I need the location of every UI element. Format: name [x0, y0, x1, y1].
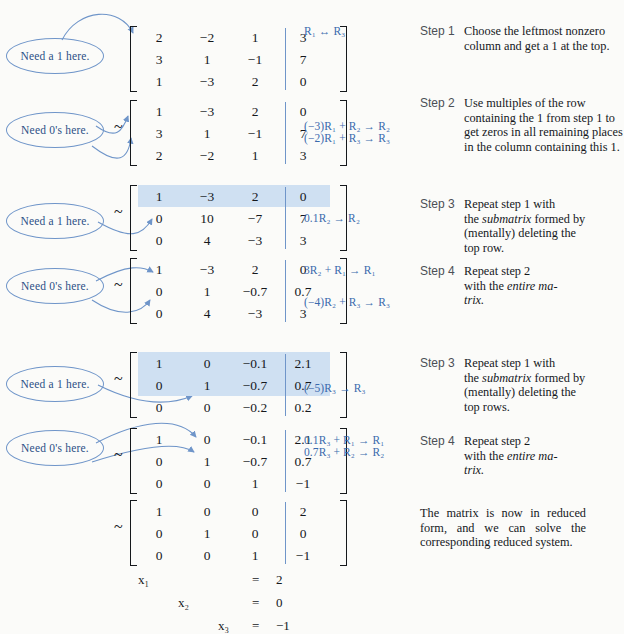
- matrix-7: 10020100001−1: [138, 500, 338, 566]
- row-operation-6: 0.1R₃ + R₁ → R₁ 0.7R₃ + R₂ → R₂: [304, 434, 384, 458]
- callout-need-0-second: Need 0's here.: [6, 268, 104, 304]
- matrix-cell: 0: [234, 500, 282, 522]
- matrix-bracket-left: [130, 428, 139, 494]
- solution-equals: =: [252, 595, 259, 611]
- matrix-cell: 0: [186, 544, 234, 566]
- matrix-cell: −3: [186, 185, 234, 207]
- matrix-cell: 1: [138, 70, 186, 92]
- solution-variable: x₃: [218, 618, 229, 634]
- matrix-cell: 0: [282, 185, 330, 207]
- step-label-5: Step 3: [420, 356, 455, 370]
- matrix-bracket-left: [130, 352, 139, 418]
- matrix-cell: −0.7: [234, 450, 282, 472]
- matrix-cell: −0.7: [234, 374, 282, 396]
- matrix-cell: 1: [186, 522, 234, 544]
- matrix-cell: 2: [234, 70, 282, 92]
- callout-need-1-second: Need a 1 here.: [6, 203, 104, 239]
- row-operation-line: (−3)R₁ + R₂ → R₂: [304, 120, 390, 132]
- matrix-cell: 1: [186, 122, 234, 144]
- callout-label: Need 0's here.: [21, 442, 89, 454]
- callout-label: Need 0's here.: [21, 124, 89, 136]
- step-text-4: Repeat step 2with the entire ma-trix.: [464, 264, 624, 308]
- arrow-need0-a2: [92, 138, 131, 158]
- step-label-4: Step 4: [420, 264, 455, 278]
- matrix-cell: 0: [138, 472, 186, 494]
- equivalence-tilde: ~: [114, 518, 123, 536]
- matrix-cell: 4: [186, 302, 234, 324]
- matrix-cell: 1: [138, 352, 186, 374]
- matrix-cell: −2: [186, 26, 234, 48]
- callout-label: Need 0's here.: [21, 280, 89, 292]
- matrix-cell: 2: [234, 258, 282, 280]
- matrix-cell: 0: [138, 522, 186, 544]
- arrow-need1-a: [62, 14, 133, 40]
- step-label-1: Step 1: [420, 24, 455, 38]
- closing-note: The matrix is now in reduced form, and w…: [420, 506, 586, 550]
- solution-value: 0: [276, 595, 283, 611]
- callout-need-0-third: Need 0's here.: [6, 430, 104, 466]
- matrix-cell: 4: [186, 229, 234, 251]
- matrix-cell: 1: [186, 280, 234, 302]
- matrix-cell: 2: [138, 26, 186, 48]
- matrix-cell: −1: [282, 472, 330, 494]
- matrix-cell: 0: [186, 472, 234, 494]
- matrix-cell: −3: [186, 70, 234, 92]
- matrix-cell: 1: [186, 374, 234, 396]
- solution-equals: =: [252, 618, 259, 634]
- matrix-cell: 0: [186, 500, 234, 522]
- equivalence-tilde: ~: [114, 118, 123, 136]
- matrix-cell: 2.1: [282, 352, 330, 374]
- row-operation-line: (−5)R₃ → R₃: [304, 382, 366, 394]
- callout-label: Need a 1 here.: [20, 50, 89, 62]
- matrix-cell: 0.2: [282, 396, 330, 418]
- matrix-cell: −1: [234, 122, 282, 144]
- matrix-cell: 0: [138, 207, 186, 229]
- step-text-1: Choose the leftmost nonzero column and g…: [464, 24, 624, 53]
- augmented-divider: [285, 354, 286, 416]
- matrix-cell: 1: [138, 185, 186, 207]
- matrix-cell: 3: [282, 144, 330, 166]
- matrix-cell: 0: [138, 544, 186, 566]
- matrix-cell: −3: [234, 229, 282, 251]
- solution-variable: x₂: [178, 595, 189, 611]
- matrix-cell: −0.1: [234, 352, 282, 374]
- callout-label: Need a 1 here.: [20, 215, 89, 227]
- step-text-5: Repeat step 1 withthe submatrix formed b…: [464, 356, 624, 414]
- row-operation-3: 0.1R₂ → R₂: [304, 212, 360, 224]
- matrix-cell: −2: [186, 144, 234, 166]
- equivalence-tilde: ~: [114, 370, 123, 388]
- matrix-cell: 0: [186, 396, 234, 418]
- matrix-cell: 2: [234, 185, 282, 207]
- step-text-6: Repeat step 2with the entire ma-trix.: [464, 434, 624, 478]
- matrix-cell: 3: [138, 122, 186, 144]
- augmented-divider: [285, 502, 286, 564]
- matrix-cell: 1: [186, 48, 234, 70]
- matrix-cell: 0: [138, 280, 186, 302]
- matrix-cell: −0.2: [234, 396, 282, 418]
- matrix-cell: −1: [282, 544, 330, 566]
- matrix-cell: 0: [234, 522, 282, 544]
- matrix-cell: 0: [186, 428, 234, 450]
- callout-need-1-third: Need a 1 here.: [6, 366, 104, 402]
- augmented-divider: [285, 102, 286, 164]
- row-operation-line: 0.7R₃ + R₂ → R₂: [304, 446, 384, 458]
- step-text-3: Repeat step 1 withthe submatrix formed b…: [464, 197, 624, 255]
- matrix-cell: 3: [282, 229, 330, 251]
- solution-value: −1: [276, 618, 290, 634]
- equivalence-tilde: ~: [114, 203, 123, 221]
- matrix-cell: 2: [282, 500, 330, 522]
- matrix-cell: 1: [234, 472, 282, 494]
- matrix-bracket-left: [130, 258, 139, 324]
- callout-need-0-first: Need 0's here.: [6, 112, 104, 148]
- callout-need-1-first: Need a 1 here.: [6, 38, 104, 74]
- matrix-cell: 0: [282, 522, 330, 544]
- matrix-cell: 3: [138, 48, 186, 70]
- matrix-cell: 10: [186, 207, 234, 229]
- matrix-cell: 2: [138, 144, 186, 166]
- row-operation-line: R₁ ↔ R₃: [304, 25, 345, 37]
- row-operation-5: (−5)R₃ → R₃: [304, 382, 366, 394]
- row-operation-2: (−3)R₁ + R₂ → R₂ (−2)R₁ + R₃ → R₃: [304, 120, 390, 144]
- equivalence-tilde: ~: [114, 446, 123, 464]
- matrix-bracket-left: [130, 26, 139, 92]
